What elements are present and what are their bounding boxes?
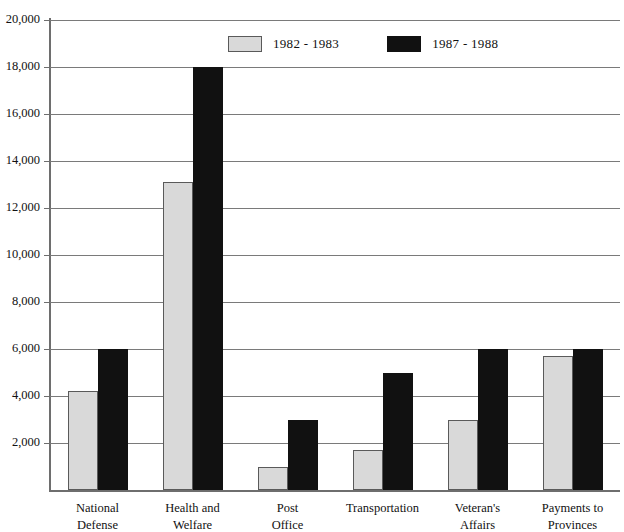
bar-group	[163, 20, 223, 490]
legend-item-series-1: 1987 - 1988	[387, 36, 498, 52]
gridline	[50, 208, 620, 209]
bar-series-0	[543, 356, 573, 490]
y-axis-tick	[44, 208, 50, 209]
y-axis-tick-label: 20,000	[0, 13, 40, 25]
y-axis-tick	[44, 114, 50, 115]
gridline	[50, 443, 620, 444]
bar-group	[68, 20, 128, 490]
bar-series-1	[478, 349, 508, 490]
x-axis-label-line: Payments to	[513, 500, 624, 517]
bar-group	[448, 20, 508, 490]
bar-group	[353, 20, 413, 490]
gridline	[50, 67, 620, 68]
y-axis-tick-label: 18,000	[0, 60, 40, 72]
x-axis-baseline	[50, 490, 620, 492]
chart-legend: 1982 - 1983 1987 - 1988	[228, 36, 498, 52]
y-axis-tick	[44, 20, 50, 21]
y-axis-tick-label: 8,000	[0, 295, 40, 307]
y-axis-tick-label: 4,000	[0, 389, 40, 401]
bar-group	[258, 20, 318, 490]
legend-swatch-icon-series-1	[387, 36, 421, 52]
bar-chart: 2,0004,0006,0008,00010,00012,00014,00016…	[0, 0, 624, 532]
gridline	[50, 302, 620, 303]
y-axis-tick	[44, 255, 50, 256]
gridline	[50, 349, 620, 350]
legend-swatch-icon-series-0	[228, 36, 262, 52]
x-axis-label: Payments toProvinces	[513, 500, 624, 532]
y-axis-tick	[44, 443, 50, 444]
bar-series-0	[163, 182, 193, 490]
legend-label-series-0: 1982 - 1983	[273, 36, 339, 52]
y-axis-tick-label: 2,000	[0, 436, 40, 448]
bar-series-1	[573, 349, 603, 490]
bar-series-0	[68, 391, 98, 490]
bar-series-0	[258, 467, 288, 491]
gridline	[50, 255, 620, 256]
plot-area	[50, 20, 620, 490]
legend-label-series-1: 1987 - 1988	[432, 36, 498, 52]
y-axis-tick	[44, 396, 50, 397]
bar-series-1	[288, 420, 318, 491]
bar-series-1	[383, 373, 413, 491]
y-axis-tick-label: 16,000	[0, 107, 40, 119]
bar-series-1	[98, 349, 128, 490]
gridline	[50, 396, 620, 397]
legend-item-series-0: 1982 - 1983	[228, 36, 339, 52]
y-axis-tick-label: 6,000	[0, 342, 40, 354]
bar-series-0	[353, 450, 383, 490]
gridline	[50, 114, 620, 115]
y-axis-tick	[44, 161, 50, 162]
y-axis-tick-label: 10,000	[0, 248, 40, 260]
x-axis-label-line: Provinces	[513, 517, 624, 532]
bar-series-0	[448, 420, 478, 491]
y-axis-tick-label: 14,000	[0, 154, 40, 166]
y-axis-tick	[44, 67, 50, 68]
bar-group	[543, 20, 603, 490]
x-axis-label-line: Office	[228, 517, 347, 532]
gridline	[50, 20, 620, 21]
gridline	[50, 161, 620, 162]
y-axis-tick	[44, 349, 50, 350]
bar-series-1	[193, 67, 223, 490]
y-axis-tick-label: 12,000	[0, 201, 40, 213]
y-axis-tick	[44, 302, 50, 303]
